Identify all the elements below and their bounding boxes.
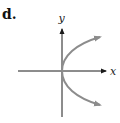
y-axis-label: y <box>58 12 66 25</box>
x-axis-label: x <box>110 65 117 78</box>
parabola-graph: d. y x <box>0 0 120 123</box>
parabola-lower-arm <box>62 71 100 105</box>
parabola-upper-arm <box>62 37 100 71</box>
part-label: d. <box>2 6 17 22</box>
